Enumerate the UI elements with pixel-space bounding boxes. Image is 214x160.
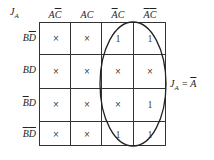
result-equation: JA = A (170, 78, 196, 92)
